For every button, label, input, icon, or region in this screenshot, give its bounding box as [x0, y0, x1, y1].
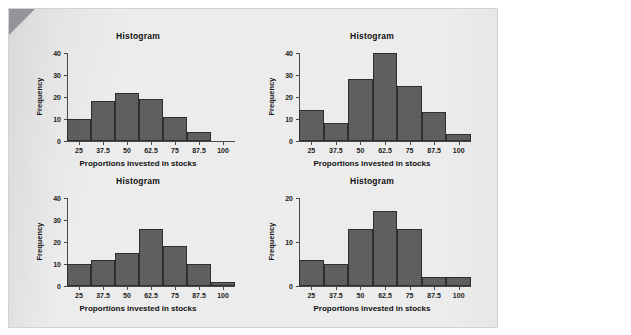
x-tick-label: 25: [307, 147, 315, 154]
histogram-bar: 10: [187, 264, 211, 286]
x-tick-mark: [151, 287, 152, 290]
x-tick-mark: [79, 287, 80, 290]
x-tick-label: 37.5: [329, 147, 343, 154]
x-tick-mark: [103, 142, 104, 145]
histogram-bar: 13: [422, 112, 447, 141]
x-tick-mark: [385, 287, 386, 290]
plot-area: 0102030402537.55062.57587.51001018221911…: [67, 53, 235, 141]
y-tick-label: 30: [275, 72, 293, 79]
y-tick-label: 20: [43, 94, 61, 101]
x-axis-label: Proportions invested in stocks: [27, 304, 249, 313]
x-axis-label: Proportions invested in stocks: [257, 304, 487, 313]
histogram-bar: 2: [211, 282, 235, 286]
y-tick-mark: [296, 198, 299, 199]
histogram-bar: 40: [373, 53, 398, 141]
y-axis-label: Frequency: [35, 198, 44, 286]
x-tick-label: 62.5: [378, 292, 392, 299]
x-tick-label: 62.5: [144, 292, 158, 299]
x-tick-label: 37.5: [96, 292, 110, 299]
x-tick-label: 62.5: [378, 147, 392, 154]
plot-area: 010202537.55062.57587.51006513171322: [299, 198, 471, 286]
x-tick-label: 87.5: [192, 147, 206, 154]
histogram-bar: 12: [91, 260, 115, 286]
x-tick-label: 50: [357, 292, 365, 299]
y-tick-label: 40: [43, 195, 61, 202]
x-tick-mark: [223, 287, 224, 290]
y-axis-label: Frequency: [267, 53, 276, 141]
y-tick-label: 20: [275, 94, 293, 101]
x-tick-label: 100: [217, 292, 229, 299]
y-tick-label: 40: [43, 50, 61, 57]
x-tick-label: 75: [406, 147, 414, 154]
page-corner-fold-artifact: [9, 9, 35, 35]
x-tick-label: 87.5: [427, 292, 441, 299]
y-tick-mark: [296, 141, 299, 142]
x-tick-mark: [103, 287, 104, 290]
histogram-bar: 28: [348, 79, 373, 141]
x-tick-mark: [311, 142, 312, 145]
y-axis-label: Frequency: [35, 53, 44, 141]
x-tick-mark: [360, 142, 361, 145]
chart-title: Histogram: [27, 31, 249, 41]
y-tick-label: 20: [275, 195, 293, 202]
y-tick-mark: [64, 220, 67, 221]
histogram-bar: 22: [115, 93, 139, 141]
histogram-bottom-left: Histogram0102030402537.55062.57587.51001…: [27, 176, 249, 318]
histogram-bar: 5: [324, 264, 349, 286]
x-tick-mark: [79, 142, 80, 145]
histogram-bar: 2: [446, 277, 471, 286]
chart-title: Histogram: [27, 176, 249, 186]
histogram-bar: 17: [373, 211, 398, 286]
x-tick-label: 100: [453, 292, 465, 299]
x-axis-label: Proportions invested in stocks: [27, 159, 249, 168]
histogram-bar: 2: [422, 277, 447, 286]
page-root: Histogram0102030402537.55062.57587.51001…: [0, 0, 631, 335]
x-tick-label: 50: [123, 292, 131, 299]
histogram-bar: 3: [446, 134, 471, 141]
x-tick-label: 37.5: [96, 147, 110, 154]
x-tick-mark: [459, 287, 460, 290]
y-tick-mark: [64, 97, 67, 98]
y-tick-mark: [64, 75, 67, 76]
y-tick-mark: [296, 242, 299, 243]
plot-area: 0102030402537.55062.57587.51001482840251…: [299, 53, 471, 141]
x-tick-mark: [410, 142, 411, 145]
x-tick-label: 62.5: [144, 147, 158, 154]
y-tick-label: 10: [275, 116, 293, 123]
x-tick-mark: [127, 142, 128, 145]
x-tick-mark: [199, 142, 200, 145]
plot-area: 0102030402537.55062.57587.51001012152618…: [67, 198, 235, 286]
y-tick-label: 40: [275, 50, 293, 57]
y-tick-mark: [64, 53, 67, 54]
y-axis-label: Frequency: [267, 198, 276, 286]
x-tick-label: 75: [171, 147, 179, 154]
y-tick-label: 10: [275, 239, 293, 246]
y-tick-label: 0: [43, 283, 61, 290]
histogram-bottom-right: Histogram010202537.55062.57587.510065131…: [257, 176, 487, 318]
histogram-bar: 11: [163, 117, 187, 141]
x-tick-mark: [434, 142, 435, 145]
histogram-bar: 13: [348, 229, 373, 286]
x-tick-label: 100: [453, 147, 465, 154]
x-tick-mark: [336, 287, 337, 290]
figure-panel: Histogram0102030402537.55062.57587.51001…: [8, 8, 498, 328]
x-tick-mark: [459, 142, 460, 145]
x-tick-label: 75: [171, 292, 179, 299]
y-tick-mark: [64, 198, 67, 199]
x-tick-label: 25: [75, 147, 83, 154]
histogram-bar: 4: [187, 132, 211, 141]
y-tick-label: 10: [43, 261, 61, 268]
histogram-bar: 10: [67, 264, 91, 286]
histogram-bar: 8: [324, 123, 349, 141]
y-tick-mark: [296, 286, 299, 287]
histogram-bar: 6: [299, 260, 324, 286]
histogram-top-left: Histogram0102030402537.55062.57587.51001…: [27, 31, 249, 166]
histogram-bar: 15: [115, 253, 139, 286]
y-tick-mark: [296, 53, 299, 54]
x-tick-mark: [199, 287, 200, 290]
x-tick-label: 50: [357, 147, 365, 154]
x-tick-label: 25: [307, 292, 315, 299]
y-tick-label: 0: [43, 138, 61, 145]
y-tick-mark: [64, 286, 67, 287]
y-tick-mark: [64, 141, 67, 142]
